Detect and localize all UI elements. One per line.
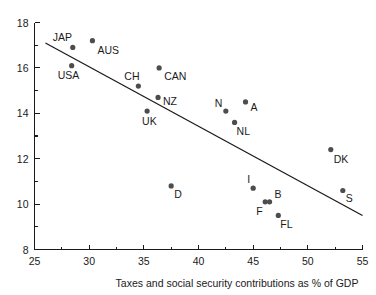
- y-tick-label: 14: [17, 107, 29, 119]
- data-point-label-b: B: [275, 188, 282, 200]
- x-axis-ticks: [35, 245, 363, 250]
- plot-axes: [35, 23, 363, 250]
- x-tick-label: 50: [302, 255, 314, 267]
- x-tick-label: 25: [29, 255, 41, 267]
- data-point-label-d: D: [174, 188, 182, 200]
- data-points: JAPUSAAUSCHCANNZUKDNANLIFBFLDKS: [53, 31, 353, 230]
- data-point-label-aus: AUS: [97, 44, 119, 56]
- data-point-label-dk: DK: [334, 153, 349, 165]
- x-tick-label: 45: [247, 255, 259, 267]
- x-tick-label: 35: [138, 255, 150, 267]
- data-point-label-s: S: [346, 192, 353, 204]
- data-point-label-nl: NL: [237, 125, 251, 137]
- data-point-jap: [70, 45, 75, 50]
- y-axis-tick-labels: 81012141618: [17, 17, 29, 256]
- data-point-label-jap: JAP: [53, 31, 72, 43]
- x-axis-tick-labels: 25303540455055: [29, 255, 369, 267]
- x-tick-label: 30: [83, 255, 95, 267]
- data-point-ch: [136, 83, 141, 88]
- data-point-can: [157, 65, 162, 70]
- data-point-usa: [69, 63, 74, 68]
- data-point-label-uk: UK: [142, 115, 157, 127]
- data-point-nz: [155, 95, 160, 100]
- data-point-aus: [90, 38, 95, 43]
- regression-line-path: [45, 43, 362, 216]
- data-point-n: [223, 108, 228, 113]
- scatter-plot-canvas: 25303540455055 81012141618 JAPUSAAUSCHCA…: [0, 0, 376, 295]
- data-point-s: [340, 188, 345, 193]
- data-point-label-f: F: [256, 205, 262, 217]
- data-point-label-ch: CH: [124, 70, 139, 82]
- y-tick-label: 16: [17, 62, 29, 74]
- data-point-dk: [328, 147, 333, 152]
- data-point-a: [243, 99, 248, 104]
- data-point-b: [267, 199, 272, 204]
- y-axis-ticks: [35, 23, 40, 250]
- y-tick-label: 12: [17, 153, 29, 165]
- data-point-label-nz: NZ: [163, 95, 178, 107]
- data-point-nl: [232, 120, 237, 125]
- x-axis-title: Taxes and social security contributions …: [116, 277, 359, 289]
- data-point-fl: [276, 213, 281, 218]
- data-point-label-n: N: [215, 97, 223, 109]
- data-point-label-can: CAN: [164, 70, 186, 82]
- regression-line: [45, 43, 362, 216]
- data-point-label-usa: USA: [58, 69, 80, 81]
- data-point-label-a: A: [251, 101, 258, 113]
- y-tick-label: 10: [17, 198, 29, 210]
- y-tick-label: 8: [23, 244, 29, 256]
- data-point-d: [169, 183, 174, 188]
- x-tick-label: 40: [193, 255, 205, 267]
- data-point-label-fl: FL: [280, 218, 292, 230]
- data-point-label-i: I: [247, 173, 250, 185]
- scatter-plot-figure: 25303540455055 81012141618 JAPUSAAUSCHCA…: [0, 0, 376, 295]
- axis-lines: [35, 23, 363, 250]
- x-tick-label: 55: [357, 255, 369, 267]
- data-point-i: [251, 186, 256, 191]
- y-tick-label: 18: [17, 17, 29, 29]
- data-point-uk: [145, 108, 150, 113]
